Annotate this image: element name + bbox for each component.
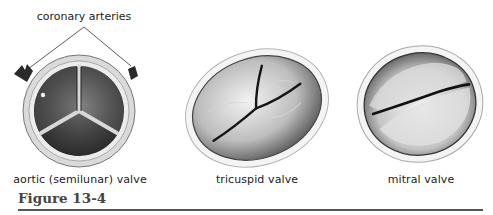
figure-caption: Figure 13-4	[18, 190, 106, 206]
right-coronary-artery-stub	[128, 66, 138, 80]
coronary-arteries-label: coronary arteries	[37, 10, 131, 23]
aortic-valve-drawing	[14, 55, 138, 167]
tricuspid-valve-drawing	[169, 29, 345, 186]
aortic-valve-label: aortic (semilunar) valve	[13, 173, 147, 186]
caption-divider	[18, 209, 483, 211]
left-coronary-artery-stub	[14, 64, 33, 82]
mitral-valve-drawing	[346, 34, 493, 174]
tricuspid-valve-label: tricuspid valve	[216, 173, 298, 186]
mitral-valve-label: mitral valve	[388, 173, 455, 186]
